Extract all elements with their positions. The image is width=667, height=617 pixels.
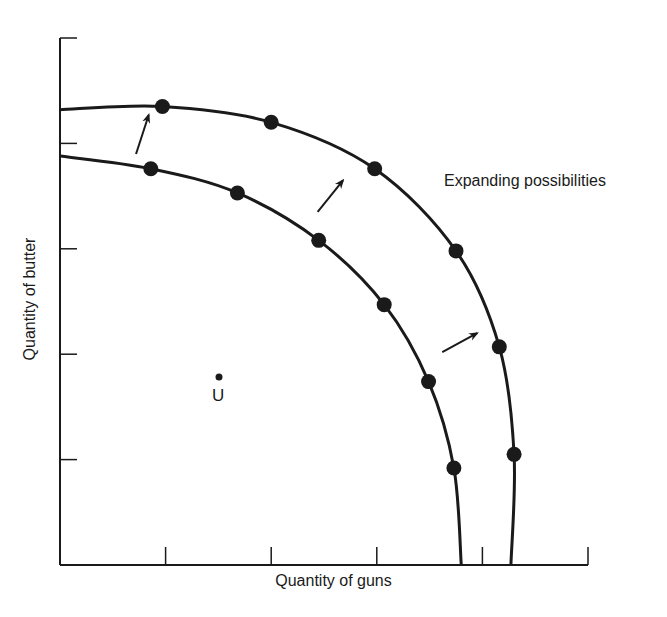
point-u-marker (216, 374, 223, 381)
data-point (507, 447, 522, 462)
data-point (377, 297, 392, 312)
data-point (264, 115, 279, 130)
x-axis-label: Quantity of guns (0, 572, 667, 590)
data-points (143, 99, 521, 476)
original-ppf-curve (60, 156, 461, 565)
data-point (311, 233, 326, 248)
data-point (230, 185, 245, 200)
data-point (421, 374, 436, 389)
data-point (143, 161, 158, 176)
data-point (449, 243, 464, 258)
y-axis-label: Quantity of butter (21, 199, 39, 399)
data-point (367, 161, 382, 176)
data-point (492, 339, 507, 354)
shift-arrow-icon (136, 115, 149, 154)
axes (60, 38, 588, 565)
data-point (155, 99, 170, 114)
point-u-dot (216, 374, 223, 381)
shift-arrows (136, 115, 477, 352)
ppf-chart (0, 0, 667, 617)
point-u-label: U (212, 386, 224, 406)
shift-arrow-icon (318, 180, 343, 212)
annotation-expanding-possibilities: Expanding possibilities (444, 172, 606, 190)
data-point (446, 461, 461, 476)
shift-arrow-icon (442, 333, 477, 352)
